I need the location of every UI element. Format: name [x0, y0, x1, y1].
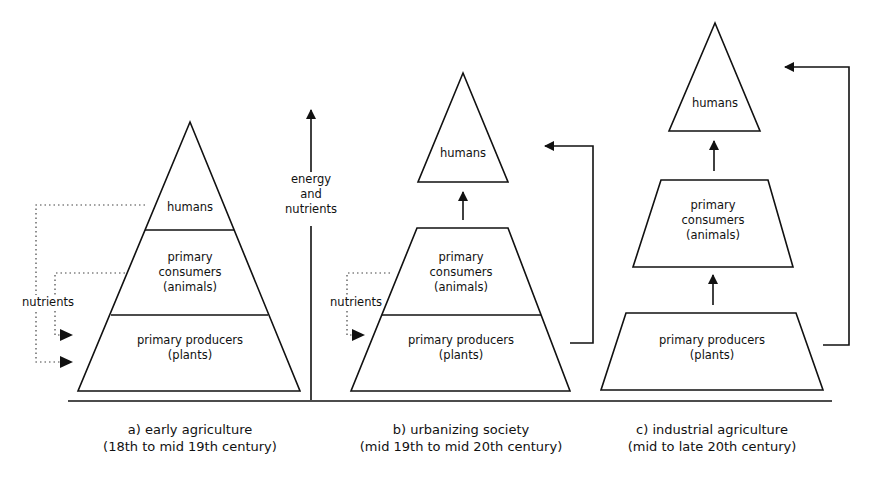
caption-line: b) urbanizing society — [360, 421, 562, 438]
label-line: (plants) — [659, 348, 765, 363]
pyramid-c-humans — [669, 23, 760, 131]
caption-line: c) industrial agriculture — [628, 421, 797, 438]
label-line: primary — [159, 250, 222, 265]
diagram-canvas — [0, 0, 876, 484]
panel-b-nutrients-label: nutrients — [330, 295, 382, 310]
label-line: (animals) — [430, 280, 493, 295]
label-line: consumers — [682, 213, 745, 228]
axis-label-line: nutrients — [285, 202, 337, 217]
panel-b-producers-label: primary producers (plants) — [408, 333, 514, 363]
panel-a-nutrients-label: nutrients — [22, 295, 74, 310]
label-line: (plants) — [408, 348, 514, 363]
panel-b-humans-label: humans — [440, 146, 486, 161]
feedback-arrow-b — [545, 146, 593, 343]
nutrient-loop-a-outer — [36, 205, 145, 362]
label-line: primary — [682, 198, 745, 213]
panel-c-caption: c) industrial agriculture (mid to late 2… — [628, 421, 797, 455]
panel-c-producers-label: primary producers (plants) — [659, 333, 765, 363]
panel-a-producers-label: primary producers (plants) — [137, 333, 243, 363]
panel-c-consumers-label: primary consumers (animals) — [682, 198, 745, 243]
energy-axis-label: energy and nutrients — [285, 172, 337, 217]
nutrient-arrowhead-b — [352, 329, 365, 341]
caption-line: a) early agriculture — [103, 421, 277, 438]
panel-a-consumers-label: primary consumers (animals) — [159, 250, 222, 295]
label-line: primary producers — [137, 333, 243, 348]
feedback-arrow-c — [785, 67, 849, 345]
axis-label-line: energy — [285, 172, 337, 187]
nutrient-arrowhead-a-outer — [60, 356, 73, 368]
label-line: consumers — [159, 265, 222, 280]
label-line: (animals) — [159, 280, 222, 295]
panel-c-humans-label: humans — [692, 96, 738, 111]
label-line: primary — [430, 250, 493, 265]
pyramid-b-humans — [418, 73, 508, 182]
caption-line: (18th to mid 19th century) — [103, 438, 277, 455]
nutrient-arrowhead-a-inner — [60, 329, 73, 341]
label-line: consumers — [430, 265, 493, 280]
panel-b-caption: b) urbanizing society (mid 19th to mid 2… — [360, 421, 562, 455]
panel-a-caption: a) early agriculture (18th to mid 19th c… — [103, 421, 277, 455]
axis-label-line: and — [285, 187, 337, 202]
label-line: (plants) — [137, 348, 243, 363]
label-line: (animals) — [682, 228, 745, 243]
caption-line: (mid to late 20th century) — [628, 438, 797, 455]
panel-a-humans-label: humans — [167, 200, 213, 215]
panel-b-consumers-label: primary consumers (animals) — [430, 250, 493, 295]
caption-line: (mid 19th to mid 20th century) — [360, 438, 562, 455]
label-line: primary producers — [408, 333, 514, 348]
label-line: primary producers — [659, 333, 765, 348]
